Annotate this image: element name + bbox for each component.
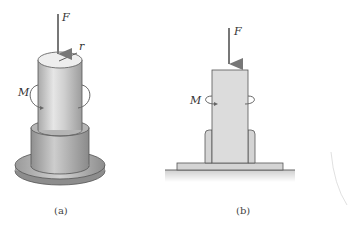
caption-a: (a) — [54, 205, 68, 216]
sleeve-left — [205, 130, 212, 163]
sleeve-right — [248, 130, 255, 163]
caption-b: (b) — [236, 205, 250, 216]
shaft-cylinder — [38, 52, 82, 136]
figure-canvas: F r M (a) F M (b) — [0, 0, 356, 227]
page-edge-artifact — [331, 152, 347, 205]
shaft-section — [212, 70, 248, 163]
moment-label-b: M — [189, 94, 202, 107]
force-label-b: F — [233, 25, 242, 38]
radius-label-a: r — [79, 40, 85, 53]
force-label-a: F — [61, 11, 70, 24]
panel-a: F r M (a) — [15, 11, 105, 216]
moment-label-a: M — [17, 86, 30, 99]
base-plate — [177, 163, 283, 170]
ground — [165, 170, 295, 182]
panel-b: F M (b) — [165, 25, 295, 216]
